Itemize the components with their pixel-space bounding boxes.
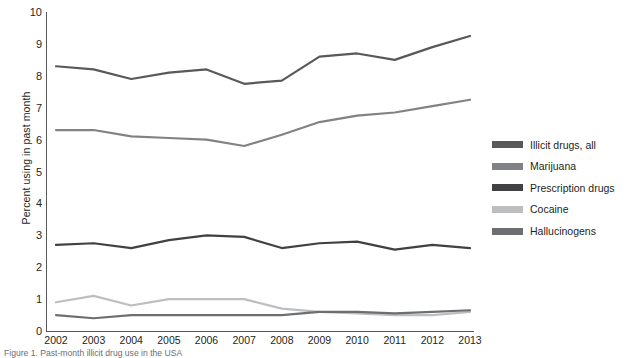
legend-item-illicit-drugs-all[interactable]: Illicit drugs, all xyxy=(492,134,628,156)
legend-label-hallucinogens: Hallucinogens xyxy=(530,226,596,237)
legend-item-prescription-drugs[interactable]: Prescription drugs xyxy=(492,177,628,199)
plot-lines-svg xyxy=(46,12,474,331)
legend-swatch-prescription-drugs xyxy=(492,184,523,191)
x-tick-label-2007: 2007 xyxy=(224,334,264,347)
legend-label-marijuana: Marijuana xyxy=(530,161,576,172)
legend-swatch-cocaine xyxy=(492,206,523,213)
x-axis-line xyxy=(46,331,474,332)
y-tick-label-4: 4 xyxy=(18,198,42,209)
y-tick-label-8: 8 xyxy=(18,70,42,81)
x-tick-label-2008: 2008 xyxy=(262,334,302,347)
legend-label-cocaine: Cocaine xyxy=(530,204,569,215)
series-line-prescription-drugs xyxy=(56,235,470,249)
x-tick-label-2012: 2012 xyxy=(412,334,452,347)
x-tick-label-2006: 2006 xyxy=(187,334,227,347)
series-line-marijuana xyxy=(56,100,470,146)
legend-item-marijuana[interactable]: Marijuana xyxy=(492,156,628,178)
y-tick-label-3: 3 xyxy=(18,230,42,241)
plot-area xyxy=(46,12,474,331)
y-tick-label-6: 6 xyxy=(18,134,42,145)
legend-swatch-hallucinogens xyxy=(492,228,523,235)
y-axis-tick-labels: 109876543210 xyxy=(18,0,42,357)
legend-swatch-marijuana xyxy=(492,163,523,170)
x-tick-label-2004: 2004 xyxy=(111,334,151,347)
legend-item-cocaine[interactable]: Cocaine xyxy=(492,199,628,221)
figure-caption: Figure 1. Past-month illicit drug use in… xyxy=(4,348,434,358)
x-tick-label-2011: 2011 xyxy=(375,334,415,347)
x-tick-label-2005: 2005 xyxy=(149,334,189,347)
y-tick-label-10: 10 xyxy=(18,7,42,18)
x-tick-label-2010: 2010 xyxy=(337,334,377,347)
x-tick-label-2013: 2013 xyxy=(450,334,490,347)
legend-label-illicit-drugs-all: Illicit drugs, all xyxy=(530,140,596,151)
x-tick-label-2009: 2009 xyxy=(299,334,339,347)
legend-label-prescription-drugs: Prescription drugs xyxy=(530,183,615,194)
y-axis-line xyxy=(46,12,47,331)
y-tick-label-5: 5 xyxy=(18,166,42,177)
y-tick-label-7: 7 xyxy=(18,102,42,113)
y-tick-label-9: 9 xyxy=(18,38,42,49)
legend-item-hallucinogens[interactable]: Hallucinogens xyxy=(492,220,628,242)
x-tick-label-2002: 2002 xyxy=(36,334,76,347)
y-tick-label-2: 2 xyxy=(18,262,42,273)
chart-legend: Illicit drugs, allMarijuanaPrescription … xyxy=(492,134,628,242)
series-line-illicit-drugs-all xyxy=(56,36,470,84)
legend-swatch-illicit-drugs-all xyxy=(492,141,523,148)
y-tick-label-1: 1 xyxy=(18,294,42,305)
x-tick-label-2003: 2003 xyxy=(74,334,114,347)
